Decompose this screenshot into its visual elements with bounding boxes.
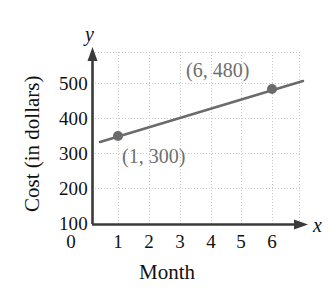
data-point-1	[113, 131, 123, 141]
y-axis	[88, 47, 98, 224]
y-tick-label: 500	[44, 74, 88, 93]
x-tick-label: 3	[167, 232, 193, 251]
x-axis-variable-label: x	[313, 215, 322, 235]
y-axis-title: Cost (in dollars)	[22, 76, 43, 213]
y-tick-label: 400	[44, 109, 88, 128]
x-tick-label: 0	[58, 232, 84, 251]
chart-figure: 500 400 300 200 100 0 1 2 3 4 5 6 y x Mo…	[0, 0, 334, 294]
x-tick-label: 1	[105, 232, 131, 251]
x-tick-label: 5	[228, 232, 254, 251]
y-axis-variable-label: y	[85, 24, 94, 44]
x-axis	[92, 220, 308, 230]
data-point-2	[267, 84, 277, 94]
x-tick-label: 6	[259, 232, 285, 251]
x-tick-label: 2	[136, 232, 162, 251]
y-tick-label: 200	[44, 179, 88, 198]
annotation-point-6-480: (6, 480)	[186, 60, 249, 80]
y-tick-label: 300	[44, 144, 88, 163]
x-tick-label: 4	[198, 232, 224, 251]
annotation-point-1-300: (1, 300)	[122, 146, 185, 166]
x-axis-title: Month	[0, 262, 334, 283]
